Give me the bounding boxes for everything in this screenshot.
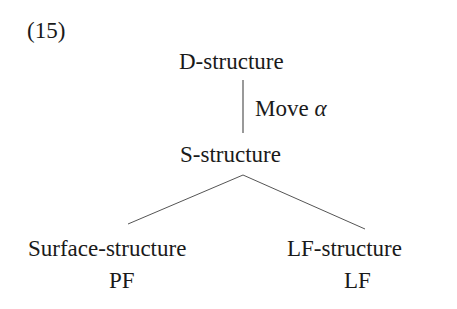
move-label: Move: [255, 96, 309, 121]
node-lf-structure: LF-structure: [287, 237, 402, 260]
edge-s-to-lf: [243, 175, 365, 229]
node-s-structure: S-structure: [180, 143, 281, 166]
node-lf: LF: [344, 269, 371, 292]
node-surface-structure: Surface-structure: [28, 237, 186, 260]
node-pf: PF: [109, 269, 135, 292]
edge-s-to-surface: [128, 175, 243, 224]
alpha-symbol: α: [314, 96, 326, 121]
move-alpha-label: Move α: [255, 97, 327, 120]
